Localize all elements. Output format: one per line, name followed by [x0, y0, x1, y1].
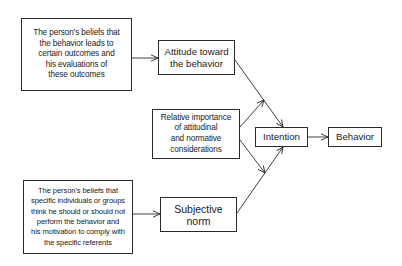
- box-line: these outcomes: [33, 70, 119, 81]
- beliefs-outcomes-box: The person's beliefs that the behavior l…: [21, 18, 132, 91]
- arrow-attitude-to-intention: [235, 60, 283, 127]
- normative-beliefs-box: The person's beliefs that specific indiv…: [23, 180, 133, 254]
- box-line: perform the behavior and: [31, 217, 125, 227]
- box-line: certain outcomes and: [33, 49, 119, 60]
- box-line: considerations: [161, 145, 231, 156]
- box-line: and normative: [161, 134, 231, 145]
- box-line: his evaluations of: [33, 60, 119, 71]
- box-line: The person's beliefs that: [31, 186, 125, 196]
- arrow-norm-to-intention: [237, 147, 283, 213]
- attitude-box: Attitude toward the behavior: [158, 40, 235, 75]
- relative-importance-box: Relative importance of attitudinal and n…: [152, 109, 240, 159]
- box-line: Relative importance: [161, 113, 231, 124]
- box-line: the behavior leads to: [33, 39, 119, 50]
- behavior-box: Behavior: [328, 127, 382, 147]
- behavior-label: Behavior: [336, 131, 374, 143]
- subjective-norm-box: Subjective norm: [160, 197, 237, 232]
- subjective-norm-label: Subjective norm: [161, 203, 236, 227]
- box-line: his motivation to comply with: [31, 227, 125, 237]
- box-line: The person's beliefs that: [33, 28, 119, 39]
- box-line: specific individuals or groups: [31, 196, 125, 206]
- box-line: Attitude toward: [165, 46, 229, 58]
- arrow-relative-to-attitude-link: [240, 100, 264, 127]
- box-line: the behavior: [165, 58, 229, 70]
- box-line: of attitudinal: [161, 123, 231, 134]
- intention-label: Intention: [263, 131, 300, 143]
- box-line: think he should or should not: [31, 207, 125, 217]
- box-line: the specific referents: [31, 238, 125, 248]
- intention-box: Intention: [255, 127, 308, 147]
